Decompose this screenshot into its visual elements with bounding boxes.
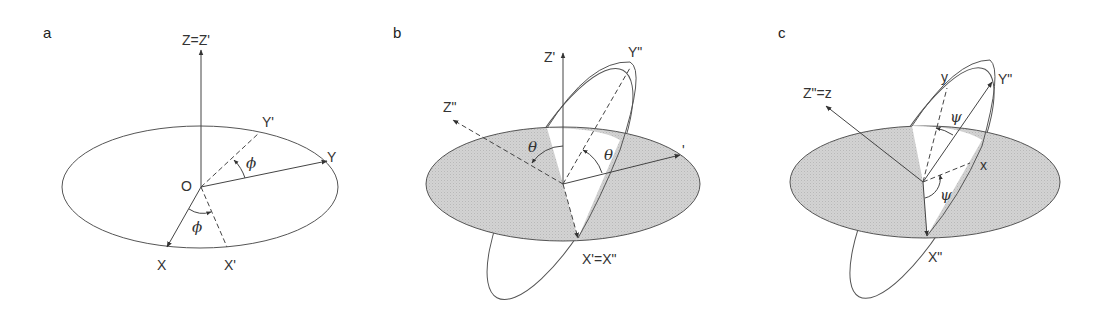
psi-label-bottom: ψ [940,186,952,204]
label-z-prime: Z' [544,49,555,65]
label-z-equals-zprime: Z=Z' [182,32,210,48]
y-axis-arrow [201,161,327,187]
label-y-double-prime: Y" [998,71,1012,87]
euler-angles-figure: a Z=Z' Y' Y ϕ O X X' ϕ b [0,0,1095,323]
label-z-double-prime-equals-z: Z"=z [803,85,832,101]
label-y-prime-partial: ' [682,142,685,158]
x-axis-arrow [167,187,201,247]
label-y-double-prime: Y" [628,44,642,60]
label-x-prime: X' [224,257,236,273]
label-x: X [157,257,167,273]
panel-a: a Z=Z' Y' Y ϕ O X X' ϕ [43,24,338,273]
label-x-prime-equals-x-double-prime: X'=X" [582,251,617,267]
phi-arc-top [234,160,245,178]
theta-label-left: θ [528,138,537,156]
panel-b: b Z' Y" Z" ' θ θ X'=X" [393,24,700,318]
panel-letter-a: a [43,24,52,41]
label-x-double-prime: X" [928,249,942,265]
phi-label-bottom: ϕ [192,218,202,236]
label-y-small: y [941,69,948,85]
panel-letter-b: b [393,24,401,41]
label-z-double-prime: Z" [443,99,457,115]
phi-label-top: ϕ [246,154,256,172]
label-y: Y [327,149,337,165]
psi-label-top: ψ [950,108,962,126]
label-origin: O [181,178,192,194]
label-x-small: x [980,157,987,173]
panel-letter-c: c [778,24,786,41]
panel-c: c Z"=z y Y" ψ x ψ X" [778,24,1060,316]
theta-label-right: θ [604,146,613,164]
x-prime-dashed-axis [201,187,227,247]
label-y-prime: Y' [262,114,274,130]
phi-arc-bottom [189,209,211,213]
